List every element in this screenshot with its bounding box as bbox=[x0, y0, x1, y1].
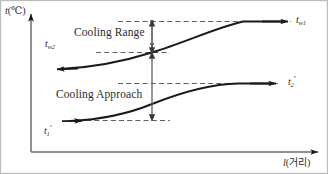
cooling-range-label: Cooling Range bbox=[74, 27, 145, 39]
label-t2-prime-mark: ′ bbox=[294, 74, 296, 84]
label-tw2: tw2 bbox=[45, 39, 55, 49]
label-t1-prime: t1′ bbox=[44, 126, 52, 136]
y-axis-label: t(℃) bbox=[5, 6, 26, 16]
cooling-approach-label: Cooling Approach bbox=[56, 89, 142, 101]
water-curve-left-arrow bbox=[57, 69, 78, 70]
cooling-range-arrow-up bbox=[149, 19, 155, 26]
cooling-tower-diagram: t(℃) l(거리) Cooling Range Cooling Approac… bbox=[0, 0, 328, 174]
label-tw2-sub: w2 bbox=[47, 43, 55, 50]
label-t2-prime: t2′ bbox=[288, 77, 296, 87]
x-axis-label-unit: (거리) bbox=[286, 157, 311, 168]
label-tw1: tw1 bbox=[296, 15, 306, 25]
y-axis-label-unit: (℃) bbox=[8, 5, 26, 16]
label-t1-prime-mark: ′ bbox=[50, 123, 52, 133]
diagram-canvas bbox=[0, 0, 328, 174]
figure-frame bbox=[1, 1, 328, 174]
label-tw1-sub: w1 bbox=[298, 19, 306, 26]
x-axis-label: l(거리) bbox=[283, 158, 310, 168]
